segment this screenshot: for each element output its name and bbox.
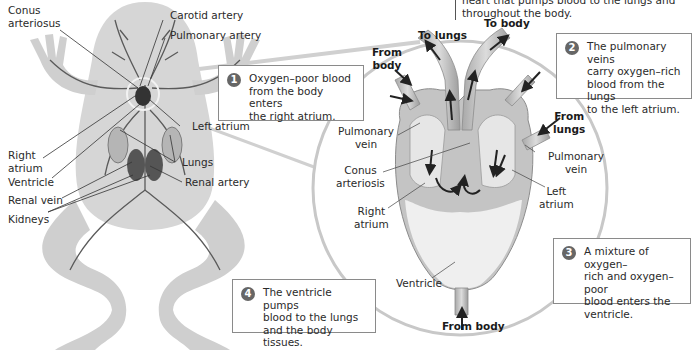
frog-heart [135, 86, 151, 106]
label-heart-ventricle: Ventricle [396, 277, 442, 290]
label-lungs: Lungs [182, 156, 213, 169]
step-badge-3: 3 [562, 246, 576, 260]
label-to-lungs: To lungs [418, 29, 467, 42]
step-text-4: The ventricle pumps blood to the lungs a… [263, 286, 367, 349]
label-renal-artery: Renal artery [185, 176, 250, 189]
label-heart-left-atrium: Left atrium [539, 185, 574, 210]
step-badge-1: 1 [227, 73, 241, 87]
label-ventricle: Ventricle [8, 176, 54, 189]
step-badge-4: 4 [241, 287, 255, 301]
label-pulmonary-vein-left: Pulmonary vein [338, 125, 394, 150]
frog-left-arm [30, 34, 98, 95]
step-box-2: 2 The pulmonary veins carry oxygen–rich … [556, 33, 692, 99]
step-box-3: 3 A mixture of oxygen– rich and oxygen–p… [553, 238, 691, 304]
top-note-line-1: heart that pumps blood to the lungs and [462, 0, 675, 7]
frog-lung-left [108, 127, 128, 163]
step-text-2: The pulmonary veins carry oxygen–rich bl… [587, 40, 683, 115]
step-box-1: 1 Oxygen–poor blood from the body enters… [218, 65, 364, 121]
label-pulmonary-artery: Pulmonary artery [170, 29, 261, 42]
label-left-atrium: Left atrium [192, 120, 250, 133]
label-conus-arteriosus: Conus arteriosus [8, 4, 61, 29]
heart-from-body-bottom-vessel [455, 288, 468, 315]
label-conus-arteriosis: Conus arteriosis [336, 164, 385, 189]
label-renal-vein: Renal vein [8, 194, 63, 207]
step-text-3: A mixture of oxygen– rich and oxygen–poo… [584, 245, 682, 320]
label-pulmonary-vein-right: Pulmonary vein [548, 150, 604, 175]
label-right-atrium: Right atrium [8, 149, 43, 174]
step-badge-2: 2 [565, 41, 579, 55]
step-text-1: Oxygen–poor blood from the body enters t… [249, 72, 355, 122]
step-box-4: 4 The ventricle pumps blood to the lungs… [232, 279, 376, 333]
label-from-body-bottom: From body [442, 320, 505, 333]
label-from-lungs: From lungs [553, 110, 585, 135]
label-heart-right-atrium: Right atrium [354, 205, 389, 230]
label-to-body: To body [484, 17, 530, 30]
label-from-body-top: From body [372, 46, 402, 71]
label-carotid-artery: Carotid artery [170, 9, 243, 22]
label-kidneys: Kidneys [8, 213, 49, 226]
